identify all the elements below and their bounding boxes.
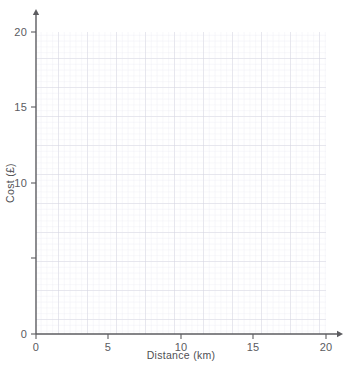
x-tick-label-20: 20 — [320, 341, 333, 353]
y-axis-title: Cost (£) — [4, 163, 16, 203]
x-tick-label-15: 15 — [247, 341, 260, 353]
x-tick-label-0: 0 — [33, 341, 39, 353]
x-axis-title: Distance (km) — [147, 349, 216, 361]
graph-plot-area — [0, 0, 358, 371]
y-axis-ticks — [31, 32, 36, 334]
x-tick-label-5: 5 — [105, 341, 111, 353]
grid-lines — [36, 32, 326, 334]
y-tick-label-15: 15 — [6, 101, 27, 113]
y-tick-label-0: 0 — [12, 328, 27, 340]
x-axis-ticks — [36, 334, 326, 339]
graph-figure: 0 5 10 15 20 0 10 15 20 Distance (km) Co… — [0, 0, 358, 371]
y-tick-label-20: 20 — [6, 26, 27, 38]
